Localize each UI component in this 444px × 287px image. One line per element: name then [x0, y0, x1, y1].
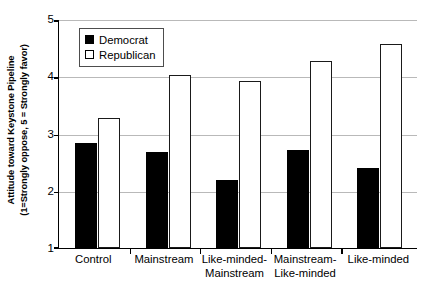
legend-label-republican: Republican [99, 49, 156, 61]
bar-republican-like-minded [380, 44, 402, 248]
legend-item-republican: Republican [85, 47, 156, 62]
x-tick-label-like-minded-mainstream: Like-minded- Mainstream [199, 253, 270, 280]
x-tick-label-mainstream-like-minded: Mainstream- Like-minded [270, 253, 341, 280]
bar-group-like-minded-mainstream [200, 20, 271, 248]
legend: Democrat Republican [79, 28, 164, 67]
legend-swatch-democrat-icon [85, 35, 94, 44]
y-axis-title-line-2: (1=Strongly oppose, 5 = Strongly favor) [17, 44, 28, 216]
bar-group-like-minded [341, 20, 412, 248]
x-tick-label-mainstream: Mainstream [129, 253, 200, 267]
bar-republican-mainstream-like-minded [310, 61, 332, 248]
bar-democrat-control [75, 143, 97, 248]
y-tick-label-3: 3 [36, 129, 54, 141]
legend-label-democrat: Democrat [99, 34, 148, 46]
x-tick-label-control: Control [58, 253, 129, 267]
legend-swatch-republican-icon [85, 50, 94, 59]
bar-democrat-mainstream [146, 152, 168, 248]
bar-group-mainstream-like-minded [271, 20, 342, 248]
y-tick-label-4: 4 [36, 71, 54, 83]
y-tick-label-2: 2 [36, 186, 54, 198]
bar-chart: Attitude toward Keystone Pipeline (1=Str… [0, 0, 444, 287]
y-tick-label-5: 5 [36, 14, 54, 26]
bar-republican-mainstream [169, 75, 191, 248]
bar-republican-control [98, 118, 120, 249]
x-tick-label-like-minded: Like-minded [340, 253, 416, 267]
bar-democrat-like-minded-mainstream [216, 180, 238, 248]
y-tick-label-1: 1 [36, 243, 54, 255]
bar-republican-like-minded-mainstream [239, 81, 261, 248]
legend-item-democrat: Democrat [85, 32, 156, 47]
y-axis-title-line-1: Attitude toward Keystone Pipeline [5, 56, 16, 205]
bar-democrat-mainstream-like-minded [287, 150, 309, 248]
bar-democrat-like-minded [357, 168, 379, 248]
y-axis-title: Attitude toward Keystone Pipeline (1=Str… [0, 0, 34, 260]
